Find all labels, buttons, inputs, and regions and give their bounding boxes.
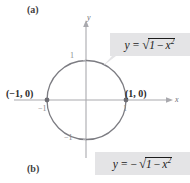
radicand-upper-operator: − xyxy=(155,39,166,51)
radicand-lower-exponent: 2 xyxy=(167,156,171,165)
radicand-lower: 1−x2 xyxy=(145,157,172,171)
x-tick-label-positive: 1 xyxy=(123,104,127,113)
equation-lower: y = − √ 1−x2 xyxy=(113,157,172,171)
radicand-upper: 1−x2 xyxy=(148,38,175,52)
radical-upper: √ 1−x2 xyxy=(142,38,175,52)
radicand-lower-first: 1 xyxy=(146,158,152,170)
y-axis-label: y xyxy=(87,13,91,22)
x-tick-label-negative: −1 xyxy=(38,104,47,113)
point-marker-left xyxy=(45,98,50,103)
x-axis-arrowhead xyxy=(166,97,173,103)
equation-callout-lower: y = − √ 1−x2 xyxy=(95,152,190,175)
point-label-one-zero: (1, 0) xyxy=(125,88,147,99)
radical-symbol-lower: √ xyxy=(139,157,146,171)
part-label-b: (b) xyxy=(27,163,39,174)
equation-callout-upper: y = √ 1−x2 xyxy=(110,33,190,56)
equation-upper: y = √ 1−x2 xyxy=(125,38,176,52)
equation-lower-sign: − xyxy=(130,159,139,171)
radical-symbol-upper: √ xyxy=(142,38,149,52)
radicand-lower-operator: − xyxy=(152,158,163,170)
callout-top-pointer xyxy=(103,56,116,66)
y-tick-label-negative: −1 xyxy=(64,133,73,142)
radical-lower: √ 1−x2 xyxy=(139,157,172,171)
equation-lower-equals: = xyxy=(118,159,131,171)
equation-upper-equals: = xyxy=(130,40,143,52)
y-tick-label-positive: 1 xyxy=(70,51,74,60)
radicand-upper-exponent: 2 xyxy=(171,37,175,46)
figure-container: (a) y x 1 −1 −1 1 (−1, 0) (1, 0) y = √ xyxy=(0,0,190,183)
point-label-minus-one-zero: (−1, 0) xyxy=(6,88,33,99)
x-axis-label: x xyxy=(175,95,179,104)
